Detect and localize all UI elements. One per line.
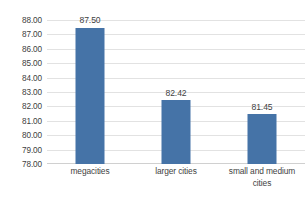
x-axis-category-small-and-medium-cities: small and medium cities bbox=[219, 166, 305, 189]
x-axis-category-line: larger cities bbox=[133, 166, 219, 178]
bar-value-label: 81.45 bbox=[251, 102, 272, 112]
y-axis-tick-label: 84.00 bbox=[0, 74, 42, 83]
x-axis-category-line: megacities bbox=[47, 166, 133, 178]
x-axis-category-megacities: megacities bbox=[47, 166, 133, 178]
x-axis-category-larger-cities: larger cities bbox=[133, 166, 219, 178]
y-axis-tick-label: 83.00 bbox=[0, 88, 42, 97]
y-axis: 88.00 87.00 86.00 85.00 84.00 83.00 82.0… bbox=[0, 0, 45, 199]
x-axis-category-line: cities bbox=[219, 178, 305, 190]
bar-larger-cities[interactable] bbox=[162, 100, 191, 164]
y-axis-tick-label: 82.00 bbox=[0, 102, 42, 111]
bar-slot: 87.50 bbox=[47, 20, 133, 164]
y-axis-tick-label: 80.00 bbox=[0, 131, 42, 140]
bar-small-and-medium-cities[interactable] bbox=[248, 114, 277, 164]
bar-megacities[interactable] bbox=[76, 28, 105, 164]
y-axis-tick-label: 79.00 bbox=[0, 146, 42, 155]
bar-series: 87.50 82.42 81.45 bbox=[47, 20, 305, 164]
y-axis-tick-label: 85.00 bbox=[0, 59, 42, 68]
x-axis-category-line: small and medium bbox=[219, 166, 305, 178]
plot-area: 87.50 82.42 81.45 bbox=[47, 20, 305, 164]
y-axis-tick-label: 78.00 bbox=[0, 160, 42, 169]
y-axis-tick-label: 87.00 bbox=[0, 30, 42, 39]
y-axis-tick-label: 81.00 bbox=[0, 117, 42, 126]
x-axis: megacities larger cities small and mediu… bbox=[47, 166, 305, 199]
bar-slot: 82.42 bbox=[133, 20, 219, 164]
bar-slot: 81.45 bbox=[219, 20, 305, 164]
y-axis-tick-label: 86.00 bbox=[0, 45, 42, 54]
y-axis-tick-label: 88.00 bbox=[0, 16, 42, 25]
bar-chart: 88.00 87.00 86.00 85.00 84.00 83.00 82.0… bbox=[0, 0, 307, 199]
bar-value-label: 87.50 bbox=[79, 15, 100, 25]
bar-value-label: 82.42 bbox=[165, 88, 186, 98]
